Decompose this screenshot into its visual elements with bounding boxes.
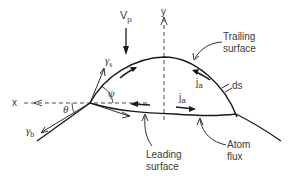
trailing-surface-label-line1: Trailing bbox=[223, 31, 255, 42]
atom-flux-label-line2: flux bbox=[227, 151, 243, 162]
right-surface-line bbox=[236, 114, 281, 141]
arrow-icon bbox=[192, 69, 199, 75]
theta-label: θ bbox=[63, 103, 69, 115]
x-axis-label: x bbox=[12, 97, 17, 108]
flux-arrow-lower-left bbox=[130, 101, 150, 107]
atom-flux-label-line1: Atom bbox=[227, 139, 250, 150]
vp-arrow bbox=[123, 28, 129, 55]
y-axis-label: y bbox=[161, 6, 166, 17]
trailing-surface-label-line2: surface bbox=[223, 43, 256, 54]
gamma-s-label: γs bbox=[105, 54, 112, 69]
ja-lower-label: ja bbox=[178, 92, 186, 105]
leading-surface-label-line2: surface bbox=[146, 161, 179, 172]
gamma-b-label: γb bbox=[26, 124, 34, 139]
flux-arrow-lower-right bbox=[176, 106, 196, 112]
ds-marker bbox=[222, 84, 232, 92]
ds-label: ds bbox=[232, 80, 243, 91]
leading-surface-label-line1: Leading bbox=[146, 149, 182, 160]
surface-diagram: y x Vp γs γb θ ψ bbox=[0, 0, 289, 180]
ja-upper-label: ja bbox=[195, 77, 203, 90]
down-arrow-icon bbox=[123, 46, 129, 55]
y-axis bbox=[161, 17, 167, 120]
arrow-icon bbox=[130, 101, 138, 107]
psi-label: ψ bbox=[108, 87, 115, 99]
atom-flux-leader bbox=[197, 118, 226, 145]
lower-surface-curve bbox=[90, 103, 236, 116]
arrow-icon bbox=[189, 106, 196, 112]
vp-label: Vp bbox=[120, 9, 132, 24]
leading-surface-leader bbox=[142, 114, 152, 146]
trailing-surface-leader bbox=[193, 42, 222, 60]
